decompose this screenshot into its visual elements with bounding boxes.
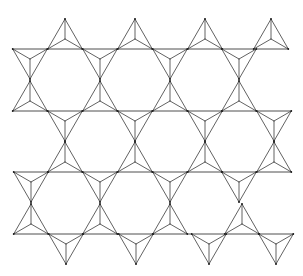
vertex-dot xyxy=(287,48,289,50)
triangle-edge xyxy=(209,234,226,264)
triangle-edge xyxy=(48,111,65,141)
vertex-dot xyxy=(47,171,49,173)
triangle-edge xyxy=(274,142,291,172)
vertex-dot xyxy=(82,48,84,50)
vertex-dot xyxy=(117,48,119,50)
lattice-drawing xyxy=(0,0,303,276)
vertex-dot xyxy=(241,203,243,205)
triangle-edge xyxy=(100,49,117,79)
vertex-dot xyxy=(47,110,49,112)
vertex-dot xyxy=(258,233,260,235)
vertex-dot xyxy=(238,80,240,82)
vertex-dot xyxy=(117,171,119,173)
triangle-edge xyxy=(14,204,31,234)
vertex-dot xyxy=(270,18,272,20)
vertex-dot xyxy=(256,110,258,112)
triangle-edge xyxy=(271,19,288,49)
vertex-dot xyxy=(82,233,84,235)
vertex-dot xyxy=(30,201,32,203)
triangle-edge xyxy=(83,204,100,234)
vertex-dot xyxy=(169,78,171,80)
triangle-edge xyxy=(205,19,222,49)
triangle-edge xyxy=(48,142,65,172)
triangle-edge xyxy=(239,172,256,202)
triangle-edge xyxy=(83,81,100,111)
triangle-edge xyxy=(222,172,239,202)
vertex-dot xyxy=(292,233,294,235)
vertex-dot xyxy=(255,48,257,50)
vertex-dot xyxy=(99,78,101,80)
triangle-edge xyxy=(135,19,152,49)
triangle-edge xyxy=(30,49,47,79)
vertex-dot xyxy=(65,263,67,265)
triangle-edge xyxy=(259,234,276,264)
vertex-dot xyxy=(117,110,119,112)
vertex-dot xyxy=(221,110,223,112)
triangle-edge xyxy=(135,142,152,172)
triangle-edge xyxy=(170,49,187,79)
vertex-dot xyxy=(152,171,154,173)
vertex-dot xyxy=(238,78,240,80)
vertex-dot xyxy=(64,18,66,20)
triangle-edge xyxy=(257,111,274,141)
triangle-edge xyxy=(118,19,135,49)
triangle-edge xyxy=(205,111,222,141)
vertex-dot xyxy=(48,233,50,235)
triangle-edge xyxy=(100,172,117,202)
vertex-dot xyxy=(64,141,66,143)
vertex-dot xyxy=(12,48,14,50)
vertex-dot xyxy=(224,233,226,235)
vertex-dot xyxy=(82,171,84,173)
triangle-edge xyxy=(274,111,291,141)
vertex-dot xyxy=(187,110,189,112)
vertex-dot xyxy=(152,48,154,50)
vertex-dot xyxy=(30,203,32,205)
vertex-dot xyxy=(13,233,15,235)
triangle-edge xyxy=(119,234,136,264)
triangle-edge xyxy=(222,49,239,79)
triangle-edge xyxy=(188,142,205,172)
vertex-dot xyxy=(191,233,193,235)
triangle-edge xyxy=(30,81,47,111)
triangle-edge xyxy=(170,204,187,234)
triangle-edge xyxy=(66,234,83,264)
triangle-edge xyxy=(153,81,170,111)
triangle-edge xyxy=(83,172,100,202)
triangle-edge xyxy=(100,204,117,234)
triangle-edge xyxy=(254,19,271,49)
triangle-edge xyxy=(153,204,170,234)
vertex-dot xyxy=(238,201,240,203)
vertex-dot xyxy=(256,171,258,173)
vertex-dot xyxy=(99,80,101,82)
vertex-dot xyxy=(169,203,171,205)
triangle-edge xyxy=(14,172,31,202)
vertex-dot xyxy=(13,171,15,173)
triangle-edge xyxy=(205,142,222,172)
kagome-lattice-diagram xyxy=(0,0,303,276)
triangle-edge xyxy=(135,111,152,141)
triangle-edge xyxy=(170,81,187,111)
vertex-dot xyxy=(29,78,31,80)
vertex-dot xyxy=(134,18,136,20)
vertex-dot xyxy=(208,263,210,265)
triangle-edge xyxy=(118,111,135,141)
triangle-edge xyxy=(257,142,274,172)
vertex-dot xyxy=(135,263,137,265)
vertex-dot xyxy=(275,263,277,265)
vertex-dot xyxy=(29,80,31,82)
vertex-dot xyxy=(221,48,223,50)
vertex-dot xyxy=(169,80,171,82)
triangle-edge xyxy=(13,81,30,111)
triangle-edge xyxy=(222,81,239,111)
triangle-edge xyxy=(49,234,66,264)
vertex-dot xyxy=(82,110,84,112)
triangle-edge xyxy=(242,204,259,234)
triangle-edge xyxy=(276,234,293,264)
vertex-dot xyxy=(221,171,223,173)
vertex-dot xyxy=(273,141,275,143)
vertex-dot xyxy=(290,110,292,112)
vertex-dot xyxy=(99,203,101,205)
triangle-edge xyxy=(65,111,82,141)
triangle-edge xyxy=(31,204,48,234)
vertex-dot xyxy=(187,171,189,173)
